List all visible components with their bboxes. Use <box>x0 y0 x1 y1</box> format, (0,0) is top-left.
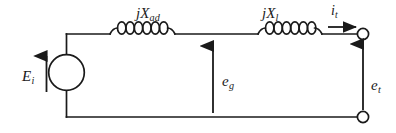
label-voltage-airgap: eg <box>222 74 234 89</box>
label-current-terminal: it <box>331 4 338 18</box>
label-jxad-base: jX <box>136 5 149 21</box>
label-ei-subscript: i <box>31 75 34 86</box>
label-it-subscript: t <box>335 10 338 20</box>
label-eg-subscript: g <box>229 80 234 91</box>
inductor-armature-symbol <box>110 22 175 34</box>
label-reactance-armature: jXad <box>136 6 160 21</box>
circuit-diagram: jXad jXl it Ei eg et <box>0 0 396 133</box>
label-jxl-subscript: l <box>276 12 279 23</box>
label-eg-base: e <box>222 73 229 89</box>
terminal-top-open-circle <box>357 28 368 39</box>
label-jxad-subscript: ad <box>150 12 160 23</box>
label-reactance-leakage: jXl <box>262 6 278 21</box>
label-jxl-base: jX <box>262 5 275 21</box>
label-emf-internal: Ei <box>22 69 34 84</box>
label-voltage-terminal: et <box>371 78 381 93</box>
label-et-base: e <box>371 77 378 93</box>
label-et-subscript: t <box>378 84 381 95</box>
inductor-leakage-symbol <box>258 22 322 34</box>
voltage-source-symbol <box>49 55 85 91</box>
label-ei-base: E <box>22 68 31 84</box>
terminal-bottom-open-circle <box>357 111 368 122</box>
